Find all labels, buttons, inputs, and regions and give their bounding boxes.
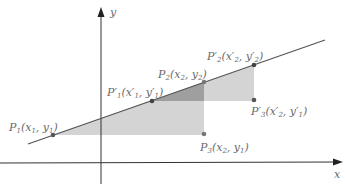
label-p3-prime: P′3(x′2, y′1) xyxy=(250,105,307,119)
slope-similar-triangles-diagram: y x P1(x1, y1) P′1(x′1, y′1) P2(x2, y2) … xyxy=(0,0,345,184)
label-p1: P1(x1, y1) xyxy=(8,121,58,135)
y-axis-arrow-icon xyxy=(98,7,105,17)
point-p3-prime xyxy=(252,98,257,103)
x-axis-label: x xyxy=(334,168,341,181)
y-axis-label: y xyxy=(109,6,117,19)
point-p3 xyxy=(202,132,207,137)
label-p1-prime: P′1(x′1, y′1) xyxy=(106,86,163,100)
x-axis-arrow-icon xyxy=(333,159,343,166)
label-p3: P3(x2, y1) xyxy=(199,141,249,155)
label-p2: P2(x2, y2) xyxy=(157,68,207,82)
x-axis xyxy=(0,162,336,163)
label-p2-prime: P′2(x′2, y′2) xyxy=(206,50,263,64)
